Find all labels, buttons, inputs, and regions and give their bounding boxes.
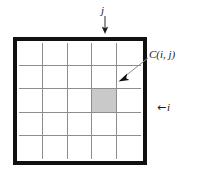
grid-frame	[13, 37, 147, 165]
grid-cell	[117, 113, 141, 136]
grid-cell	[43, 113, 67, 136]
i-arrow-icon: ←	[157, 102, 166, 113]
grid-cell	[43, 89, 67, 112]
grid-cell	[68, 136, 92, 159]
grid-cell	[117, 66, 141, 89]
grid-cell	[19, 136, 43, 159]
grid-cell	[68, 66, 92, 89]
grid-cell	[68, 89, 92, 112]
grid-cell	[68, 113, 92, 136]
grid-frame-inner-gap	[17, 41, 143, 161]
j-arrow-icon	[102, 16, 108, 34]
highlighted-cell-cij	[92, 89, 116, 112]
grid-cell	[19, 66, 43, 89]
cell-grid	[19, 43, 141, 159]
grid-cell	[117, 136, 141, 159]
grid-cell	[43, 136, 67, 159]
grid-cell	[19, 113, 43, 136]
axis-label-j: j	[101, 5, 104, 16]
grid-cell	[68, 43, 92, 66]
grid-cell	[92, 136, 116, 159]
grid-cell	[92, 113, 116, 136]
grid-cell	[117, 43, 141, 66]
grid-cell-index-diagram: j C(i, j) ← i	[0, 0, 197, 180]
grid-cell	[43, 43, 67, 66]
grid-cell	[19, 89, 43, 112]
axis-label-i: i	[167, 102, 170, 113]
grid-cell	[43, 66, 67, 89]
grid-cell	[117, 89, 141, 112]
grid-cell	[92, 43, 116, 66]
grid-cell	[92, 66, 116, 89]
grid-cell	[19, 43, 43, 66]
cell-label-cij: C(i, j)	[149, 49, 175, 60]
